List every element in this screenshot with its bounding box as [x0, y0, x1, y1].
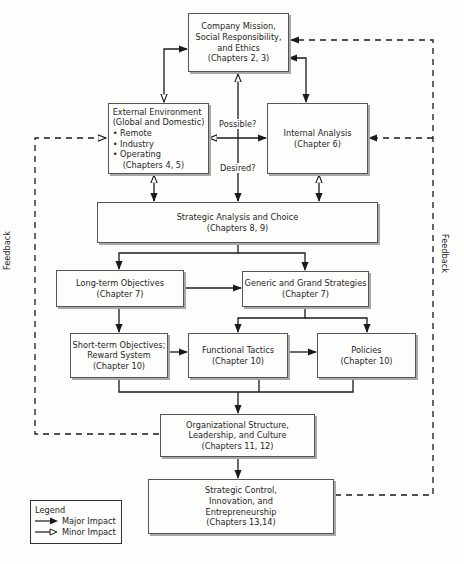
generic-split-connector: [238, 307, 305, 332]
organizational-chapters: (Chapters 11, 12): [201, 441, 273, 452]
mission-internal-connector: [289, 58, 306, 102]
functional-title: Functional Tactics: [202, 345, 274, 356]
short-term-chapters: (Chapter 10): [93, 361, 145, 372]
external-chapters: (Chapters 4, 5): [113, 160, 185, 171]
organizational-structure-box: Organizational Structure, Leadership, an…: [160, 414, 315, 457]
policies-chapters: (Chapter 10): [340, 356, 392, 367]
possible-label: Possible?: [218, 119, 257, 129]
internal-chapters: (Chapter 6): [294, 139, 341, 150]
internal-analysis-box: Internal Analysis (Chapter 6): [267, 103, 368, 174]
desired-label: Desired?: [219, 163, 257, 173]
long-term-objectives-box: Long-term Objectives (Chapter 7): [56, 270, 184, 307]
control-subtitle: Innovation, and: [209, 496, 273, 507]
mission-box: Company Mission, Social Responsibility, …: [188, 13, 289, 72]
control-chapters: (Chapters 13,14): [206, 517, 275, 528]
external-bullet-operating: • Operating: [113, 149, 161, 160]
short-term-subtitle: Reward System: [87, 350, 151, 361]
solid-arrow-icon: [35, 517, 59, 525]
mission-chapters: (Chapters 2, 3): [208, 53, 270, 64]
organizational-subtitle: Leadership, and Culture: [188, 430, 286, 441]
feedback-left-label: Feedback: [2, 231, 12, 270]
strategic-split-connector: [119, 244, 238, 269]
control-subtitle-2: Entrepreneurship: [206, 507, 277, 518]
policies-box: Policies (Chapter 10): [317, 333, 416, 378]
external-subtitle: (Global and Domestic): [113, 117, 205, 128]
generic-title: Generic and Grand Strategies: [245, 278, 367, 289]
legend-minor-row: Minor Impact: [35, 526, 121, 537]
functional-tactics-box: Functional Tactics (Chapter 10): [188, 333, 288, 378]
long-term-title: Long-term Objectives: [76, 278, 164, 289]
legend-major-row: Major Impact: [35, 515, 121, 526]
legend-minor-label: Minor Impact: [62, 527, 116, 537]
functional-chapters: (Chapter 10): [212, 356, 264, 367]
internal-title: Internal Analysis: [284, 128, 352, 139]
strategic-analysis-box: Strategic Analysis and Choice (Chapters …: [97, 202, 378, 243]
generic-grand-strategies-box: Generic and Grand Strategies (Chapter 7): [242, 271, 369, 307]
feedback-right-label: Feedback: [440, 234, 450, 273]
legend: Legend Major Impact Minor Impact: [30, 500, 122, 544]
open-arrow-icon: [35, 528, 59, 536]
long-term-chapters: (Chapter 7): [97, 289, 144, 300]
strategic-control-box: Strategic Control, Innovation, and Entre…: [148, 479, 334, 534]
mission-title: Company Mission,: [201, 21, 276, 32]
external-environment-box: External Environment (Global and Domesti…: [108, 103, 209, 174]
strategic-analysis-title: Strategic Analysis and Choice: [177, 212, 299, 223]
policies-title: Policies: [351, 345, 381, 356]
external-bullet-industry: • Industry: [113, 139, 154, 150]
legend-major-label: Major Impact: [62, 516, 116, 526]
merge-connector: [119, 379, 353, 392]
mission-subtitle: Social Responsibility,: [195, 32, 281, 43]
external-title: External Environment: [113, 107, 202, 118]
strategic-analysis-chapters: (Chapters 8, 9): [207, 223, 269, 234]
generic-chapters: (Chapter 7): [282, 289, 329, 300]
organizational-title: Organizational Structure,: [186, 420, 289, 431]
external-bullet-remote: • Remote: [113, 128, 152, 139]
mission-subtitle-2: and Ethics: [217, 43, 260, 54]
short-term-title: Short-term Objectives;: [73, 340, 166, 351]
control-title: Strategic Control,: [205, 485, 277, 496]
short-term-objectives-box: Short-term Objectives; Reward System (Ch…: [70, 333, 168, 378]
external-mission-connector: [164, 49, 187, 102]
legend-title: Legend: [35, 505, 65, 515]
